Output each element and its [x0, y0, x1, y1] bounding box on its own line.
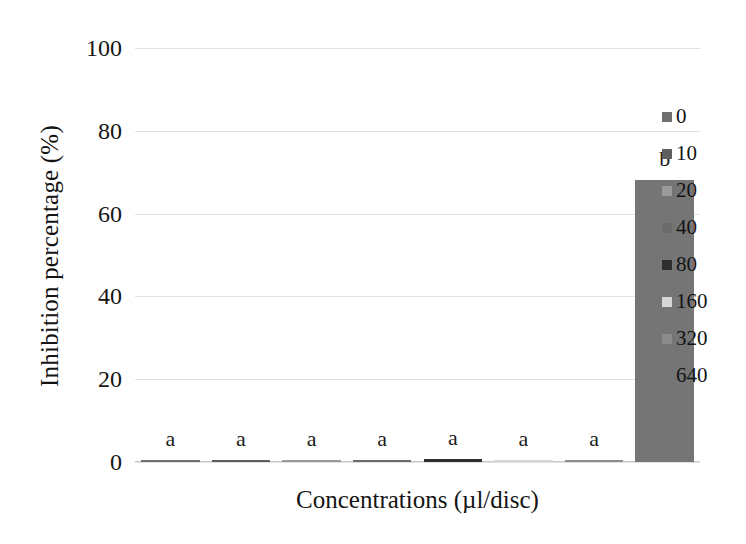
legend-label: 160 — [676, 291, 708, 312]
bar-slot: a — [206, 48, 277, 462]
bar-annotation: a — [282, 426, 341, 452]
legend-item[interactable]: 0 — [662, 98, 746, 135]
gridline — [135, 462, 700, 463]
bar-slot: a — [559, 48, 630, 462]
bar[interactable]: a — [494, 460, 553, 462]
legend-label: 20 — [676, 180, 697, 201]
bar-slot: a — [418, 48, 489, 462]
bar-annotation: a — [212, 426, 271, 452]
legend-label: 320 — [676, 328, 708, 349]
bar[interactable]: a — [212, 460, 271, 462]
y-axis-tick-labels: 020406080100 — [60, 0, 122, 544]
legend-swatch-icon — [662, 297, 672, 307]
plot-area: aaaaaaab — [135, 48, 700, 462]
y-tick-label: 0 — [62, 449, 122, 476]
legend-swatch-icon — [662, 112, 672, 122]
legend-item[interactable]: 80 — [662, 246, 746, 283]
bar[interactable]: a — [141, 460, 200, 462]
y-tick-label: 60 — [62, 200, 122, 227]
legend-swatch-icon — [662, 371, 672, 381]
chart-legend: 010204080160320640 — [662, 98, 746, 394]
chart-figure: Inhibition percentage (%) 020406080100 a… — [0, 0, 746, 544]
legend-item[interactable]: 160 — [662, 283, 746, 320]
legend-label: 10 — [676, 143, 697, 164]
bar[interactable]: a — [424, 459, 483, 462]
legend-swatch-icon — [662, 186, 672, 196]
legend-label: 80 — [676, 254, 697, 275]
legend-label: 0 — [676, 106, 687, 127]
bar-slot: a — [488, 48, 559, 462]
legend-item[interactable]: 320 — [662, 320, 746, 357]
bar[interactable]: a — [353, 460, 412, 462]
x-axis-title: Concentrations (µl/disc) — [135, 486, 700, 514]
legend-label: 40 — [676, 217, 697, 238]
legend-label: 640 — [676, 365, 708, 386]
legend-swatch-icon — [662, 260, 672, 270]
bar-annotation: a — [141, 426, 200, 452]
y-tick-label: 80 — [62, 117, 122, 144]
bar-series: aaaaaaab — [135, 48, 700, 462]
legend-item[interactable]: 10 — [662, 135, 746, 172]
y-tick-label: 100 — [62, 35, 122, 62]
bar-annotation: a — [424, 425, 483, 451]
legend-item[interactable]: 640 — [662, 357, 746, 394]
bar-slot: a — [135, 48, 206, 462]
bar[interactable]: a — [565, 460, 624, 462]
legend-item[interactable]: 20 — [662, 172, 746, 209]
legend-swatch-icon — [662, 149, 672, 159]
bar-annotation: a — [353, 426, 412, 452]
bar-slot: a — [276, 48, 347, 462]
bar-annotation: a — [494, 426, 553, 452]
legend-swatch-icon — [662, 223, 672, 233]
y-tick-label: 40 — [62, 283, 122, 310]
bar-annotation: a — [565, 426, 624, 452]
bar-slot: a — [347, 48, 418, 462]
y-tick-label: 20 — [62, 366, 122, 393]
legend-item[interactable]: 40 — [662, 209, 746, 246]
legend-swatch-icon — [662, 334, 672, 344]
bar[interactable]: a — [282, 460, 341, 462]
